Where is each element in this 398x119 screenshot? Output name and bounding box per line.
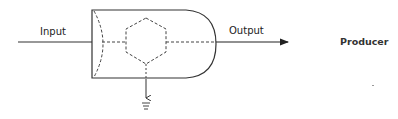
inner-arc <box>94 11 103 77</box>
producer-title: Producer <box>340 36 389 47</box>
stray-mark <box>372 85 374 86</box>
output-label: Output <box>229 25 264 36</box>
ground-icon <box>142 103 150 109</box>
producer-diagram <box>0 0 398 119</box>
hexagon-icon <box>126 18 166 64</box>
producer-body <box>92 10 216 78</box>
input-label: Input <box>40 26 66 37</box>
